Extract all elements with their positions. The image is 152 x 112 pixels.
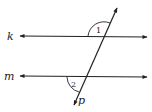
parallel-lines-transversal-diagram: k m p 1 2 [0,0,152,112]
angle-1-label: 1 [96,26,101,35]
line-m [20,76,147,77]
line-k [20,36,147,37]
label-m: m [4,70,14,83]
transversal-p [74,8,117,105]
label-p: p [78,94,85,107]
angle-2-label: 2 [71,80,76,89]
label-k: k [7,30,14,43]
